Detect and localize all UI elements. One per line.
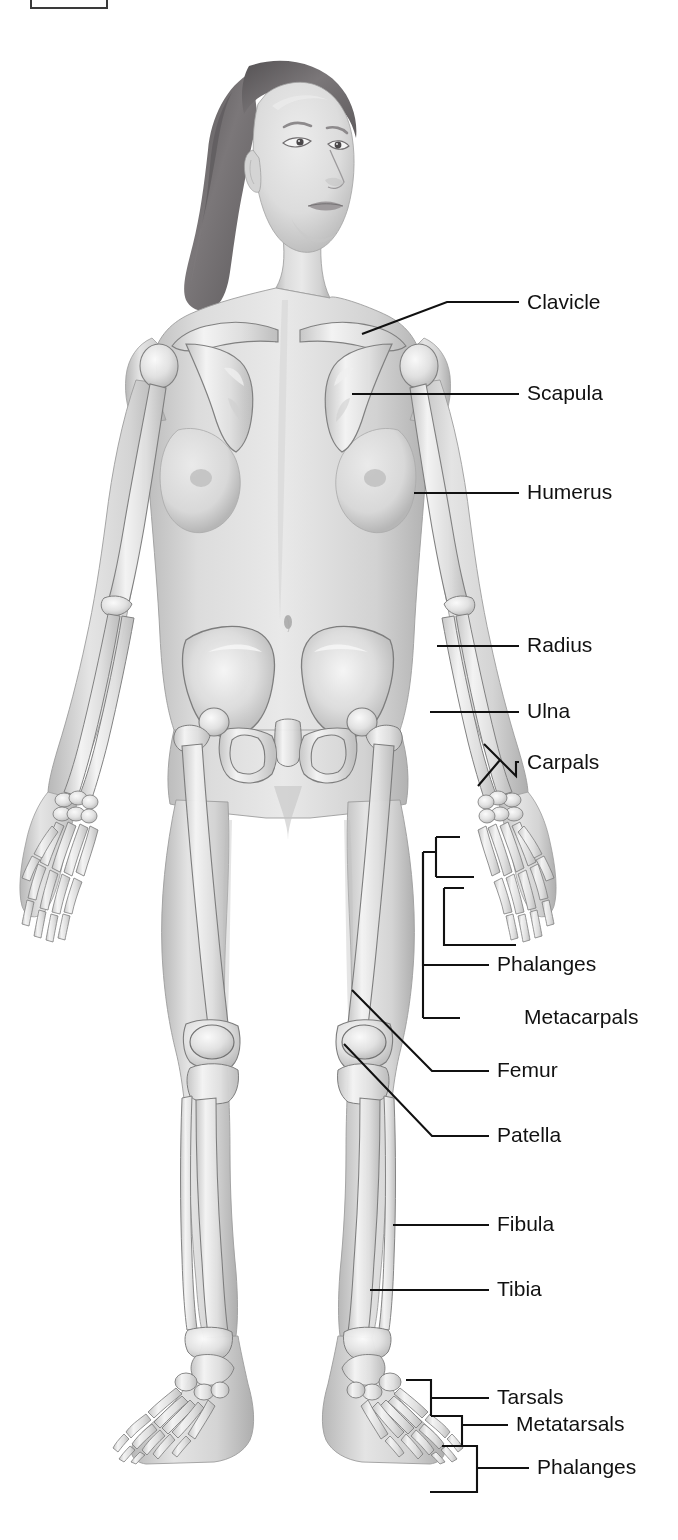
label-radius: Radius [527, 633, 592, 656]
label-tibia: Tibia [497, 1277, 542, 1300]
patella-left [190, 1025, 234, 1059]
carpals-left [53, 791, 98, 823]
knee-right [336, 1020, 393, 1104]
label-tarsals: Tarsals [497, 1385, 564, 1408]
carpals-right [478, 791, 523, 823]
knee-left [183, 1020, 240, 1104]
skeleton-diagram: Clavicle Scapula Humerus Radius Ulna Car… [0, 0, 678, 1540]
crop-marker-box [31, 0, 107, 8]
label-fibula: Fibula [497, 1212, 555, 1235]
head [244, 82, 354, 252]
navel [284, 615, 292, 629]
label-humerus: Humerus [527, 480, 612, 503]
sacrum [275, 719, 302, 767]
label-carpals: Carpals [527, 750, 599, 773]
hand-skeleton-left [22, 791, 98, 942]
label-scapula: Scapula [527, 381, 603, 404]
humerus-head-left [140, 344, 178, 388]
label-metatarsals: Metatarsals [516, 1412, 625, 1435]
patella-right [342, 1025, 386, 1059]
label-phalanges-foot: Phalanges [537, 1455, 636, 1478]
label-metacarpals: Metacarpals [524, 1005, 638, 1028]
label-ulna: Ulna [527, 699, 571, 722]
label-phalanges-hand: Phalanges [497, 952, 596, 975]
humerus-head-right [400, 344, 438, 388]
label-patella: Patella [497, 1123, 562, 1146]
label-femur: Femur [497, 1058, 558, 1081]
label-clavicle: Clavicle [527, 290, 601, 313]
hand-skeleton-right [478, 791, 554, 942]
